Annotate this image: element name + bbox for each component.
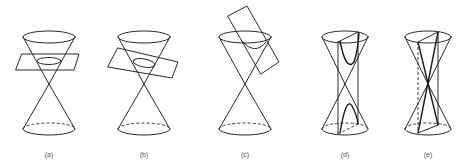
- conic-sections-figure: [0, 0, 467, 168]
- panel-a-cone-circle: [16, 31, 79, 135]
- panel-d-cone-hyperbola: [322, 31, 368, 135]
- panel-label-b: (b): [140, 151, 149, 158]
- panel-c-cone-parabola: [219, 6, 279, 135]
- panel-label-e: (e): [424, 151, 433, 158]
- panel-label-d: (d): [341, 151, 350, 158]
- panel-label-c: (c): [241, 151, 249, 158]
- panel-b-cone-ellipse: [108, 31, 178, 135]
- panel-e-cone-degenerate: [405, 31, 451, 135]
- panel-label-a: (a): [45, 151, 54, 158]
